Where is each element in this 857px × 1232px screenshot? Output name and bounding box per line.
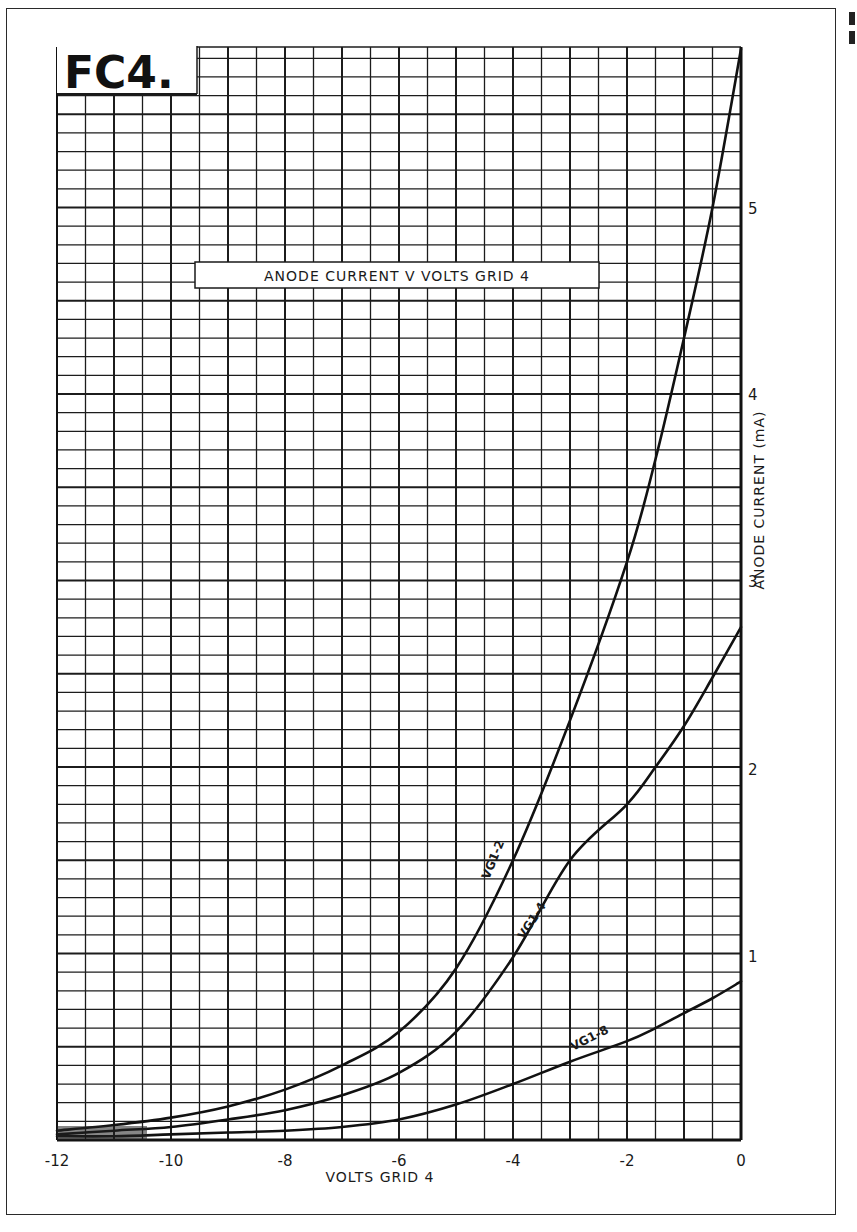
x-tick: -10 bbox=[159, 1152, 184, 1170]
chart-svg: FC4. ANODE CURRENT V VOLTS GRID 4 -12 -1… bbox=[0, 0, 857, 1232]
x-tick: -2 bbox=[620, 1152, 635, 1170]
x-tick: 0 bbox=[736, 1152, 746, 1170]
x-tick: -12 bbox=[45, 1152, 70, 1170]
x-tick: -4 bbox=[506, 1152, 521, 1170]
x-axis-label: VOLTS GRID 4 bbox=[326, 1169, 435, 1185]
y-tick: 2 bbox=[748, 761, 758, 779]
y-tick: 5 bbox=[748, 200, 758, 218]
chart-title: ANODE CURRENT V VOLTS GRID 4 bbox=[264, 268, 530, 284]
chart-grid bbox=[57, 47, 741, 1140]
y-axis-label: ANODE CURRENT (mA) bbox=[751, 410, 767, 589]
ink-smudge bbox=[57, 1126, 147, 1140]
x-axis-ticks: -12 -10 -8 -6 -4 -2 0 bbox=[45, 1152, 746, 1170]
x-tick: -6 bbox=[392, 1152, 407, 1170]
figure-badge: FC4. bbox=[64, 47, 174, 98]
x-tick: -8 bbox=[278, 1152, 293, 1170]
y-tick: 4 bbox=[748, 386, 758, 404]
y-tick: 1 bbox=[748, 948, 758, 966]
